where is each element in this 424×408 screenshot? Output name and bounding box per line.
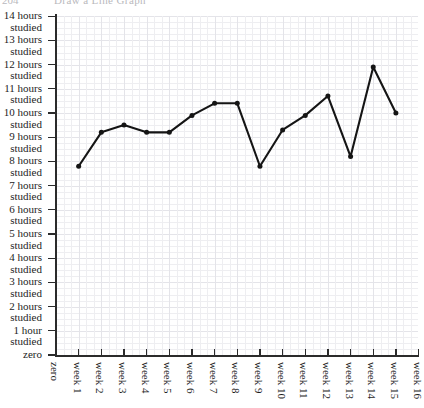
x-axis-tick — [418, 349, 419, 356]
data-point — [99, 130, 104, 135]
data-series-layer — [56, 16, 418, 355]
y-axis-label: 8 hoursstudied — [0, 155, 42, 178]
y-axis-label: 4 hoursstudied — [0, 252, 42, 275]
x-axis-label: week 15 — [389, 362, 401, 376]
x-axis-label: week 2 — [94, 362, 106, 376]
y-axis-tick — [48, 64, 56, 65]
data-point — [325, 94, 330, 99]
x-axis-tick — [169, 349, 170, 356]
x-axis-tick — [395, 349, 396, 356]
y-axis-label: 1 hourstudied — [0, 325, 42, 348]
y-axis-tick — [48, 112, 56, 113]
y-axis-tick — [48, 306, 56, 307]
data-point — [393, 111, 398, 116]
x-axis-label: week 9 — [253, 362, 265, 376]
x-axis-label: week 1 — [72, 362, 84, 376]
y-axis-label: 14 hoursstudied — [0, 10, 42, 33]
x-axis-tick — [146, 349, 147, 356]
y-axis-label: 7 hoursstudied — [0, 180, 42, 203]
x-axis-tick — [214, 349, 215, 356]
y-axis-tick — [48, 258, 56, 259]
x-axis-tick — [123, 349, 124, 356]
x-axis-label: week 11 — [298, 362, 310, 376]
x-axis-label: week 10 — [276, 362, 288, 376]
y-axis-tick — [48, 161, 56, 162]
y-axis-label: 11 hoursstudied — [0, 83, 42, 106]
x-axis-tick — [78, 349, 79, 356]
y-axis-tick — [48, 282, 56, 283]
y-axis-label: 2 hoursstudied — [0, 301, 42, 324]
x-axis-label: week 5 — [162, 362, 174, 376]
y-axis-label: 13 hoursstudied — [0, 34, 42, 57]
y-axis-label: 5 hoursstudied — [0, 228, 42, 251]
x-axis-label: week 12 — [321, 362, 333, 376]
y-axis-tick — [48, 330, 56, 331]
data-point — [257, 164, 262, 169]
x-axis-tick — [327, 349, 328, 356]
x-axis-tick — [282, 349, 283, 356]
x-axis-tick — [373, 349, 374, 356]
x-axis-tick — [305, 349, 306, 356]
page-header-title: Draw a Line Graph — [54, 0, 146, 6]
y-axis-tick — [48, 354, 56, 355]
x-axis-label: week 6 — [185, 362, 197, 376]
page-number: 204 — [2, 0, 19, 6]
y-axis-tick — [48, 40, 56, 41]
data-point — [280, 127, 285, 132]
y-axis-label: zero — [0, 349, 42, 361]
y-axis-tick — [48, 88, 56, 89]
y-axis-tick — [48, 185, 56, 186]
x-axis-label: week 3 — [117, 362, 129, 376]
y-axis-label: 3 hoursstudied — [0, 276, 42, 299]
page-header: 204 Draw a Line Graph — [0, 0, 424, 6]
x-axis-label: week 4 — [140, 362, 152, 376]
x-axis-tick — [237, 349, 238, 356]
y-axis-tick — [48, 209, 56, 210]
data-point — [303, 113, 308, 118]
x-axis-tick — [101, 349, 102, 356]
y-axis-label: 12 hoursstudied — [0, 59, 42, 82]
y-axis-label: 10 hoursstudied — [0, 107, 42, 130]
y-axis-label: 9 hoursstudied — [0, 131, 42, 154]
y-axis-label: 6 hoursstudied — [0, 204, 42, 227]
y-axis-tick — [48, 233, 56, 234]
x-axis-label: week 8 — [230, 362, 242, 376]
x-axis-tick — [350, 349, 351, 356]
x-axis-label: week 14 — [366, 362, 378, 376]
data-point — [348, 154, 353, 159]
series-line-hours-studied — [79, 67, 396, 166]
line-graph-figure: 204 Draw a Line Graph 14 hoursstudied13 … — [0, 0, 424, 408]
data-point — [121, 123, 126, 128]
data-point — [212, 101, 217, 106]
x-axis-label: week 13 — [344, 362, 356, 376]
data-point — [76, 164, 81, 169]
x-axis-label: zero — [49, 362, 61, 376]
data-point — [167, 130, 172, 135]
data-point — [144, 130, 149, 135]
x-axis-label: week 7 — [208, 362, 220, 376]
y-axis-tick — [48, 137, 56, 138]
x-axis-label: week 16 — [412, 362, 424, 376]
y-axis-tick — [48, 16, 56, 17]
data-point — [235, 101, 240, 106]
data-point — [371, 65, 376, 70]
x-axis-tick — [259, 349, 260, 356]
x-axis-tick — [191, 349, 192, 356]
plot-area — [56, 16, 418, 355]
data-point — [189, 113, 194, 118]
